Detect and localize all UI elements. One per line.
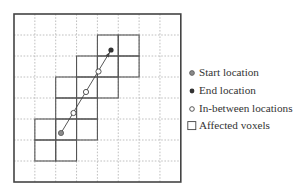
affected-voxel: [56, 77, 77, 98]
square-icon: [187, 117, 197, 135]
affected-voxel: [77, 56, 98, 77]
start-location-marker: [58, 130, 63, 135]
legend-label: Start location: [199, 64, 259, 82]
legend-label: Affected voxels: [199, 117, 270, 135]
legend-label: End location: [199, 82, 256, 100]
legend-label: In-between locations: [199, 100, 293, 118]
in-between-location-marker: [71, 110, 76, 115]
affected-voxel: [77, 119, 98, 140]
voxel-traversal-diagram: [0, 0, 304, 194]
hollow-dot-icon: [187, 100, 197, 118]
end-location-marker: [108, 47, 113, 52]
in-between-location-marker: [83, 89, 88, 94]
affected-voxel: [35, 140, 56, 161]
arrowhead-icon: [105, 52, 109, 57]
affected-voxel: [118, 56, 139, 77]
affected-voxel: [97, 35, 118, 56]
start-dot-icon: [187, 64, 197, 82]
in-between-location-marker: [96, 69, 101, 74]
affected-voxel: [56, 119, 77, 140]
affected-voxel: [118, 35, 139, 56]
affected-voxel: [35, 119, 56, 140]
affected-voxel: [56, 140, 77, 161]
affected-voxel: [97, 56, 118, 77]
end-dot-icon: [187, 82, 197, 100]
affected-voxel: [97, 77, 118, 98]
